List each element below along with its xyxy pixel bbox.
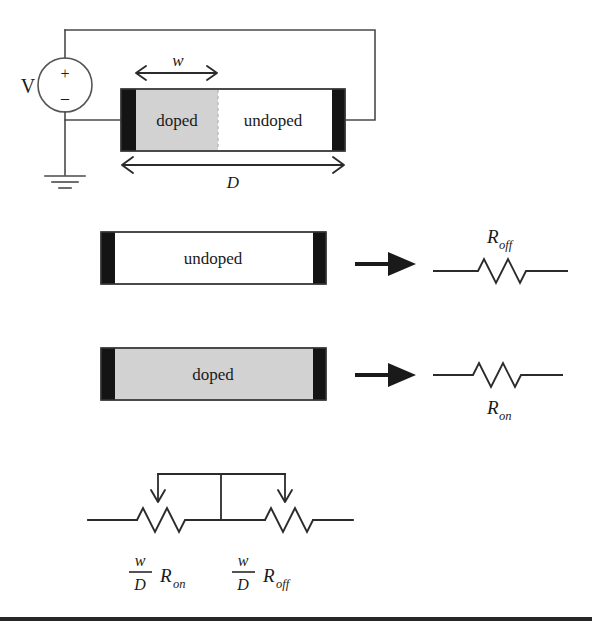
resistor-roff-label: R — [486, 226, 499, 247]
memristor-device: doped undoped — [121, 89, 345, 151]
resistor-ron-subscript: on — [499, 409, 512, 423]
undoped-box-left-electrode — [101, 232, 115, 284]
equivalent-circuit: w D R on w D R off — [88, 474, 353, 593]
doped-box-left-electrode — [101, 348, 115, 400]
eq-left-denominator: D — [133, 576, 146, 593]
implies-arrow-undoped — [355, 252, 416, 276]
row-doped-equivalence: doped R on — [101, 348, 563, 423]
doped-box-right-electrode — [313, 348, 326, 400]
undoped-box-right-electrode — [313, 232, 326, 284]
dimension-w-label: w — [172, 51, 184, 70]
left-electrode — [121, 89, 136, 151]
resistor-roff: R off — [433, 226, 568, 283]
dimension-D-label: D — [226, 173, 240, 192]
voltage-source-label: V — [21, 75, 36, 97]
eq-left-resistor-sub: on — [173, 577, 186, 591]
eq-label-right: w D R off — [232, 552, 291, 593]
eq-right-numerator: w — [238, 552, 249, 569]
implies-arrow-doped — [355, 363, 416, 387]
eq-resistor-left — [137, 508, 228, 532]
dimension-D: D — [122, 157, 344, 192]
undoped-label: undoped — [244, 111, 303, 130]
top-schematic: V + – — [21, 30, 375, 192]
resistor-ron: R on — [433, 363, 563, 423]
eq-right-resistor-sub: off — [276, 577, 291, 591]
memristor-diagram: V + – — [0, 0, 592, 628]
eq-left-resistor-base: R — [159, 565, 172, 586]
ground-symbol — [45, 176, 85, 188]
minus-sign: – — [60, 89, 70, 106]
eq-label-left: w D R on — [129, 552, 186, 593]
plus-sign: + — [60, 65, 69, 82]
eq-right-resistor-base: R — [262, 565, 275, 586]
right-electrode — [332, 89, 345, 151]
eq-arrow-left — [151, 474, 165, 502]
resistor-roff-subscript: off — [499, 238, 514, 252]
figure-root: V + – — [0, 0, 592, 628]
resistor-ron-label: R — [486, 397, 499, 418]
eq-right-denominator: D — [236, 576, 249, 593]
undoped-box-label: undoped — [184, 249, 243, 268]
bottom-divider — [0, 617, 592, 621]
doped-label: doped — [156, 111, 198, 130]
row-undoped-equivalence: undoped R off — [101, 226, 568, 284]
eq-arrow-right — [278, 474, 292, 502]
doped-box-label: doped — [192, 365, 234, 384]
eq-left-numerator: w — [135, 552, 146, 569]
dimension-w: w — [136, 51, 217, 80]
